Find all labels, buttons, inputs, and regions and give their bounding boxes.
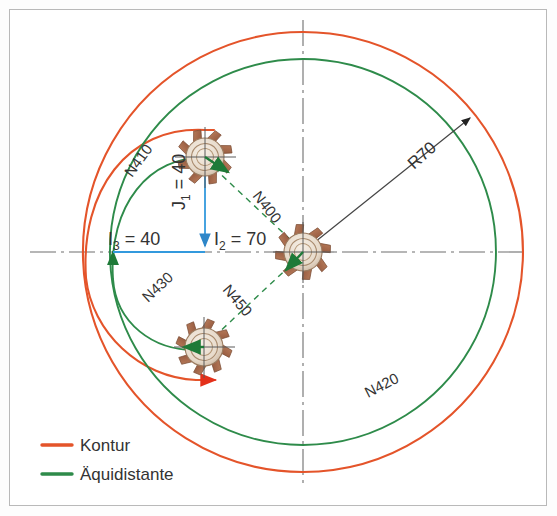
label-n450: N450 (220, 281, 256, 319)
dashed-line-n450 (214, 262, 294, 337)
label-n410: N410 (121, 141, 156, 180)
label-i2: I2 = 70 (214, 229, 266, 253)
dimension-labels: R70 I2 = 70 I3 = 40 J1 = 40 (108, 138, 440, 253)
label-r70: R70 (404, 138, 440, 173)
legend-item-aequidistante: Äquidistante (42, 465, 174, 484)
legend-label-aequidistante: Äquidistante (80, 465, 174, 484)
cutter-center (267, 216, 339, 288)
r70-leader-line (310, 118, 470, 246)
cutter-bottom (173, 316, 236, 379)
legend-item-kontur: Kontur (42, 436, 130, 455)
legend-label-kontur: Kontur (80, 436, 130, 455)
label-n430: N430 (138, 268, 176, 305)
technical-drawing-canvas: N400 N410 N420 N430 N450 R70 I2 = 70 I3 … (0, 0, 557, 516)
block-number-labels: N400 N410 N420 N430 N450 (121, 141, 402, 401)
label-n420: N420 (362, 369, 402, 400)
drawing-root: N400 N410 N420 N430 N450 R70 I2 = 70 I3 … (0, 0, 557, 516)
legend: Kontur Äquidistante (42, 436, 174, 484)
radius-leader-r70 (310, 118, 470, 246)
